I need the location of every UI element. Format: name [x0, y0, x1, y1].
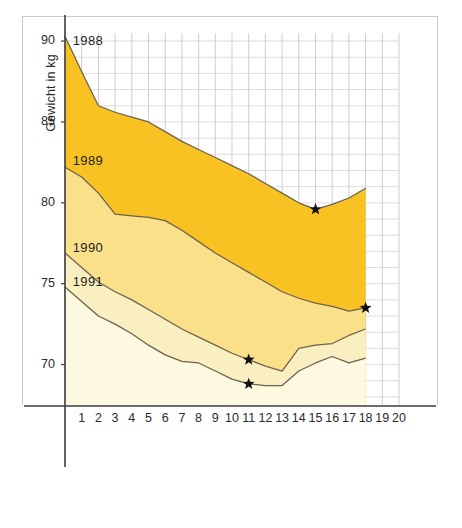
- x-tick-label: 20: [389, 411, 409, 425]
- series-label-1991: 1991: [73, 274, 103, 289]
- chart-canvas: [0, 0, 462, 528]
- series-label-1990: 1990: [73, 240, 103, 255]
- y-tick-label: 85: [29, 114, 55, 128]
- y-tick-label: 75: [29, 276, 55, 290]
- y-tick-label: 70: [29, 357, 55, 371]
- y-tick-label: 80: [29, 195, 55, 209]
- series-label-1989: 1989: [73, 153, 103, 168]
- series-label-1988: 1988: [73, 33, 103, 48]
- y-tick-label: 90: [29, 33, 55, 47]
